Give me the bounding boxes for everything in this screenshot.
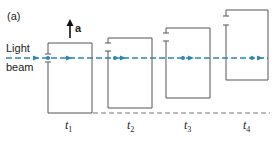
time-label-t3: t3 [184, 119, 191, 134]
beam-arrow-icon [33, 56, 39, 61]
diagram-canvas [0, 0, 274, 146]
beam-arrow-icon [257, 56, 263, 61]
box-t4 [223, 10, 268, 80]
acceleration-arrow-icon [67, 19, 74, 38]
beam-dot [46, 56, 50, 60]
beam-arrow-icon [188, 56, 194, 61]
time-label-t4: t4 [243, 119, 250, 134]
beam-dot [250, 56, 254, 60]
time-label-t2: t2 [127, 119, 134, 134]
beam-dot [113, 56, 117, 60]
beam-arrow-icon [66, 56, 72, 61]
light-beam-markers [33, 56, 263, 61]
panel-label: (a) [7, 11, 20, 22]
beam-label-light: Light [6, 43, 30, 54]
beam-arrow-icon [120, 56, 126, 61]
beam-label-beam: beam [6, 62, 34, 73]
box-t3 [163, 28, 210, 98]
acceleration-label: a [75, 23, 81, 34]
time-label-t1: t1 [65, 119, 72, 134]
box-t2 [105, 38, 152, 108]
beam-dot [181, 56, 185, 60]
box-t1 [45, 43, 92, 113]
